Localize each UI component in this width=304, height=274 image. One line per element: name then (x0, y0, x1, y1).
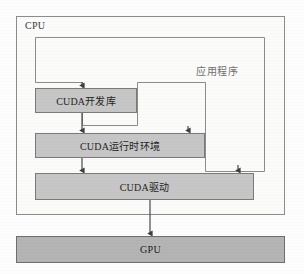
layer-box-cuda-driver[interactable]: CUDA驱动 (35, 173, 254, 200)
gpu-label: GPU (140, 244, 161, 255)
application-label: 应用程序 (196, 63, 238, 78)
layer-box-cuda-dev-lib[interactable]: CUDA开发库 (35, 88, 137, 113)
gpu-container[interactable]: GPU (16, 236, 285, 263)
layer-label-cuda-dev-lib: CUDA开发库 (56, 93, 116, 108)
layer-box-cuda-runtime[interactable]: CUDA运行时环境 (35, 133, 205, 158)
layer-label-cuda-runtime: CUDA运行时环境 (80, 138, 160, 153)
cpu-label: CPU (25, 20, 45, 31)
layer-label-cuda-driver: CUDA驱动 (120, 179, 170, 194)
diagram-canvas: CPU 应用程序 CUDA开发库 CUDA运行时环境 CU (0, 0, 304, 274)
